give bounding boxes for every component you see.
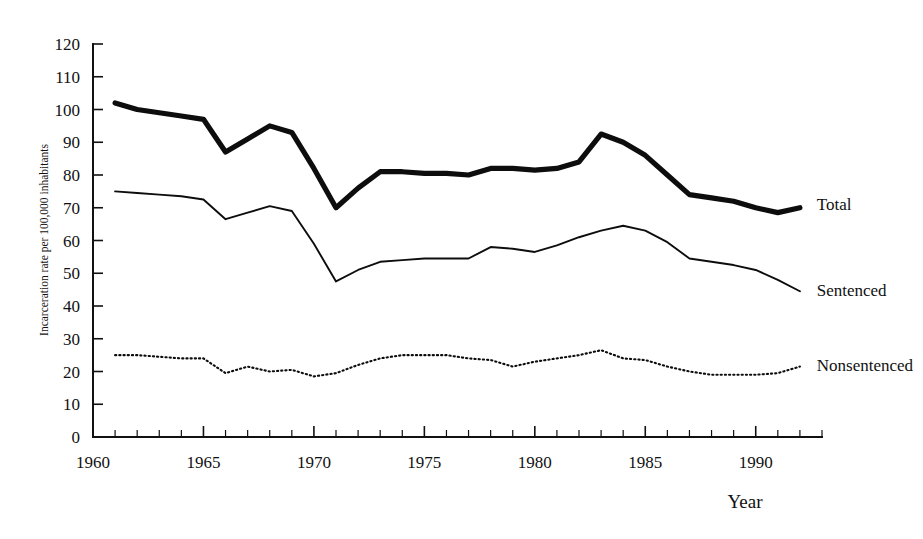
line-chart-canvas: 0102030405060708090100110120 19601965197… (0, 0, 923, 539)
y-axis-tick-label: 100 (55, 101, 81, 120)
series-label-nonsentenced: Nonsentenced (817, 356, 914, 375)
y-axis-tick-label: 90 (63, 133, 80, 152)
y-axis-tick-label: 10 (63, 395, 80, 414)
x-axis-tick-label: 1960 (76, 453, 110, 472)
y-axis-tick-label: 0 (72, 428, 81, 447)
y-axis-tick-label: 60 (63, 232, 80, 251)
y-axis-tick-label: 20 (63, 363, 80, 382)
y-axis-tick-label: 70 (63, 199, 80, 218)
y-axis-tick-label: 30 (63, 330, 80, 349)
x-axis-tick-label: 1970 (297, 453, 331, 472)
series-line-sentenced (115, 191, 800, 291)
x-axis-tick-label: 1975 (407, 453, 441, 472)
y-axis-tick-label: 110 (55, 68, 80, 87)
y-axis-tick-label: 40 (63, 297, 80, 316)
x-axis-tick-label: 1990 (739, 453, 773, 472)
series-label-total: Total (817, 195, 852, 214)
x-axis-tick-label: 1985 (628, 453, 662, 472)
chart-figure: 0102030405060708090100110120 19601965197… (0, 0, 923, 539)
x-axis-tick-marks (93, 426, 822, 437)
y-axis-tick-marks (93, 44, 103, 437)
series-line-nonsentenced (115, 350, 800, 376)
x-axis-tick-label: 1965 (186, 453, 220, 472)
series-inline-labels: TotalSentencedNonsentenced (817, 195, 914, 374)
x-axis-tick-label: 1980 (518, 453, 552, 472)
series-line-total (115, 103, 800, 213)
y-axis-tick-label: 50 (63, 264, 80, 283)
x-axis-title: Year (727, 491, 763, 512)
y-axis-tick-label: 80 (63, 166, 80, 185)
x-axis-tick-labels: 1960196519701975198019851990 (76, 453, 773, 472)
y-axis-tick-labels: 0102030405060708090100110120 (55, 35, 81, 447)
series-label-sentenced: Sentenced (817, 281, 887, 300)
y-axis-tick-label: 120 (55, 35, 81, 54)
y-axis-title: Incarceration rate per 100,000 inhabitan… (38, 144, 51, 336)
